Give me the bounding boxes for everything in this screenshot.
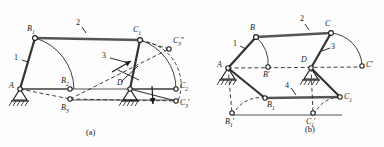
label-C1-b: C1: [344, 92, 352, 103]
joint-C1p-b: [311, 111, 315, 115]
label-D-a: D: [117, 78, 123, 87]
swing-arcs-dashed-a: [141, 41, 181, 101]
link-1-a: [20, 38, 35, 89]
construction-lines-b: [228, 67, 364, 113]
label-B1p-b: B1′: [225, 117, 234, 128]
joint-C-b: [329, 31, 334, 36]
link-1-lower-b: [228, 68, 265, 98]
label-link-1-a: 1: [14, 53, 18, 62]
caption-b: (b): [305, 124, 315, 134]
label-link-1-b: 1: [233, 39, 237, 48]
joint-C1p-a: [174, 99, 178, 103]
caption-a: (a): [86, 127, 95, 137]
link-4-b: [265, 97, 340, 98]
joints-a: [33, 36, 179, 104]
joint-B2-a: [68, 87, 72, 91]
swing-arcs-b: [256, 33, 362, 67]
label-A-a: A: [9, 81, 14, 90]
label-link-2-a: 2: [76, 18, 80, 27]
link-2-b: [256, 33, 331, 37]
label-Cp-b: C′: [366, 60, 373, 69]
joint-Cp-b: [360, 64, 364, 68]
joint-B3-a: [68, 97, 72, 101]
label-link-3-b: 3: [331, 42, 335, 51]
label-C3pp-a: C3″: [173, 36, 184, 47]
link-leaders-a: [22, 27, 125, 62]
panel-a-drawing: [9, 27, 181, 106]
label-D-b: D: [301, 55, 307, 64]
link-3-lower-b: [311, 68, 340, 97]
label-Bp-b: B′: [263, 70, 270, 79]
joint-B-b: [254, 35, 259, 40]
label-C2-a: C2: [180, 81, 188, 92]
swing-arcs-dashed-b: [234, 97, 340, 113]
label-B3-a: B3: [61, 103, 69, 114]
joint-C1-a: [138, 38, 143, 43]
label-B1-a: B1: [27, 24, 35, 35]
joint-Bp-b: [266, 65, 270, 69]
link-3-b: [311, 33, 331, 68]
label-link-4-b: 4: [285, 81, 289, 90]
label-C-b: C: [325, 19, 330, 28]
ground-lines-a: [20, 89, 178, 100]
label-link-2-b: 2: [300, 14, 304, 23]
label-link-3-a: 3: [102, 51, 106, 60]
label-C1-a: C1: [133, 25, 141, 36]
link-3-a: [130, 40, 140, 89]
joint-B1-a: [33, 36, 38, 41]
joint-B1p-b: [230, 111, 234, 115]
label-B1-b: B1: [267, 100, 275, 111]
label-B-b: B: [250, 23, 255, 32]
joint-C1-b: [338, 95, 342, 99]
figure-canvas: B1 A B2 B3 C1 C3″ C2 C3′ D 1 2 3 (a) B A…: [0, 0, 384, 147]
label-B2-a: B2: [61, 76, 69, 87]
joint-C3pp-a: [167, 47, 171, 51]
label-C3p-a: C3′: [180, 98, 190, 109]
joint-C2-a: [174, 87, 178, 91]
link-2-a: [35, 38, 140, 40]
panel-b-drawing: [217, 24, 364, 115]
label-A-b: A: [217, 60, 222, 69]
